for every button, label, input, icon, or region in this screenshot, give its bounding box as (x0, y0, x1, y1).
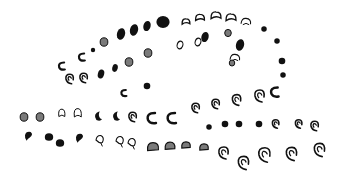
glyph-oval (129, 23, 140, 36)
glyph-cap (182, 19, 190, 24)
glyph-stipple (144, 49, 152, 57)
glyph-dot (274, 38, 280, 44)
glyph-dot (279, 58, 286, 65)
glyph-canvas (0, 0, 346, 187)
glyph-illustration (0, 0, 346, 187)
glyph-swirl (192, 103, 199, 113)
glyph-swirl (129, 112, 136, 122)
glyph-dot (280, 72, 286, 78)
glyph-brain (147, 143, 158, 151)
glyph-dot (144, 83, 151, 90)
glyph-leaf (116, 137, 123, 148)
glyph-hook (168, 113, 176, 123)
glyph-oval (111, 64, 118, 73)
glyph-swirl (295, 120, 302, 128)
glyph-brain (200, 144, 209, 150)
glyph-blob (45, 133, 53, 141)
glyph-swirl (272, 120, 279, 128)
glyph-cap (196, 14, 205, 20)
glyph-swirl (66, 74, 73, 84)
glyph-swirl (311, 121, 318, 131)
glyph-stipple (229, 60, 235, 66)
glyph-swirl (80, 73, 87, 83)
glyph-dot (261, 26, 267, 32)
glyph-swirl (255, 90, 264, 102)
glyph-oval (116, 27, 127, 40)
glyph-comma (76, 134, 83, 143)
glyph-capopen (241, 18, 251, 24)
glyph-brain (165, 142, 175, 149)
glyph-swirl (259, 148, 270, 162)
glyph-swirl (212, 99, 219, 109)
glyph-oval (235, 38, 246, 51)
glyph-cap (211, 12, 221, 19)
glyph-leaf (128, 139, 135, 150)
glyph-stipple (125, 58, 133, 66)
glyph-swirl (219, 147, 228, 159)
glyph-oval (97, 69, 105, 79)
glyph-oval (142, 20, 152, 32)
glyph-dot (222, 121, 229, 128)
glyph-hook (148, 113, 156, 123)
glyph-curl (59, 63, 65, 70)
glyph-cap (226, 14, 236, 21)
glyph-swirl (286, 147, 296, 160)
glyph-leaf (96, 136, 103, 147)
glyph-blob (56, 139, 64, 147)
glyph-crescent (113, 111, 120, 120)
glyph-hook (271, 88, 279, 97)
glyph-dot (206, 124, 212, 130)
glyph-crescent (95, 111, 102, 120)
glyph-stipple (36, 113, 44, 121)
glyph-comma (25, 132, 32, 141)
glyph-stipple (20, 113, 28, 121)
glyph-swirl (314, 143, 324, 156)
glyph-swirl (232, 95, 240, 106)
glyph-ring (176, 40, 184, 49)
glyph-blob (156, 16, 169, 28)
glyph-curl (79, 54, 85, 61)
glyph-stipple (225, 29, 232, 36)
glyph-dot (91, 48, 95, 52)
glyph-oval (200, 31, 210, 43)
glyph-brain (182, 142, 191, 148)
glyph-swirl (238, 156, 248, 169)
glyph-dot (256, 121, 263, 128)
glyph-dot (236, 121, 243, 128)
glyph-lobe (59, 109, 65, 116)
glyph-curl (121, 90, 126, 96)
glyph-lobe (74, 109, 81, 117)
glyph-stipple (100, 38, 108, 46)
glyph-ring (194, 37, 202, 46)
